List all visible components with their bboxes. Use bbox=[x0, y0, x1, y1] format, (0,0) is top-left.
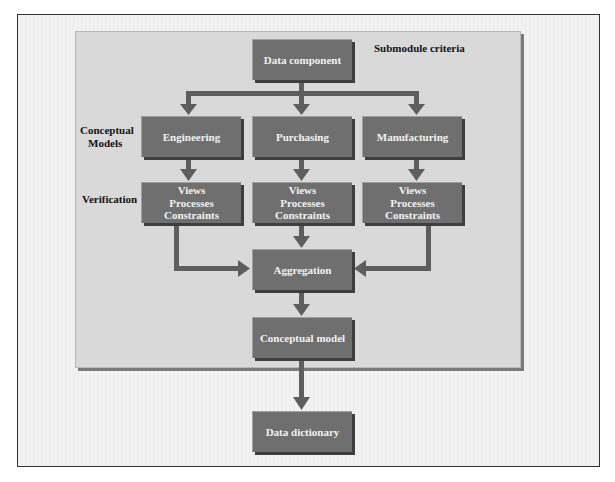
manufacturing-node: Manufacturing bbox=[362, 116, 462, 157]
purchasing-label: Purchasing bbox=[276, 131, 329, 144]
constraints-label: Constraints bbox=[164, 209, 219, 222]
engineering-label: Engineering bbox=[163, 131, 220, 144]
processes-label: Processes bbox=[275, 197, 330, 210]
aggregation-node: Aggregation bbox=[252, 249, 352, 290]
constraints-label: Constraints bbox=[385, 209, 440, 222]
verification-label: Verification bbox=[82, 193, 137, 206]
purchasing-node: Purchasing bbox=[252, 116, 352, 157]
processes-label: Processes bbox=[385, 197, 440, 210]
data-dictionary-label: Data dictionary bbox=[266, 426, 340, 439]
data-component-label: Data component bbox=[264, 54, 341, 67]
verification-node-engineering: Views Processes Constraints bbox=[141, 182, 241, 223]
data-dictionary-node: Data dictionary bbox=[252, 411, 352, 452]
manufacturing-label: Manufacturing bbox=[377, 131, 449, 144]
submodule-criteria-label: Submodule criteria bbox=[374, 42, 465, 55]
conceptual-models-label-line2: Models bbox=[80, 137, 136, 150]
conceptual-model-node: Conceptual model bbox=[252, 317, 352, 358]
views-label: Views bbox=[164, 184, 219, 197]
verification-node-purchasing: Views Processes Constraints bbox=[252, 182, 352, 223]
data-component-node: Data component bbox=[252, 39, 352, 80]
conceptual-model-label: Conceptual model bbox=[260, 332, 345, 345]
engineering-node: Engineering bbox=[141, 116, 241, 157]
constraints-label: Constraints bbox=[275, 209, 330, 222]
aggregation-label: Aggregation bbox=[274, 264, 332, 277]
views-label: Views bbox=[275, 184, 330, 197]
conceptual-models-label: Conceptual Models bbox=[80, 124, 136, 150]
views-label: Views bbox=[385, 184, 440, 197]
verification-node-manufacturing: Views Processes Constraints bbox=[362, 182, 462, 223]
processes-label: Processes bbox=[164, 197, 219, 210]
conceptual-models-label-line1: Conceptual bbox=[80, 124, 136, 137]
